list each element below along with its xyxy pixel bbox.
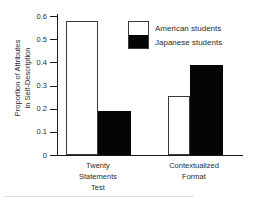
y-axis-title-line2: in Self-Description bbox=[23, 47, 32, 108]
bar bbox=[98, 111, 131, 155]
bar-chart-figure: Proportion of Attributes in Self-Descrip… bbox=[0, 0, 269, 202]
x-axis-line bbox=[57, 155, 243, 156]
y-axis-title-line1: Proportion of Attributes bbox=[13, 39, 22, 115]
footer-rule bbox=[4, 196, 194, 197]
legend-swatch-japanese bbox=[129, 35, 148, 48]
y-axis-tick-label: 0.6 bbox=[37, 13, 47, 21]
x-axis-group-label-line: Contextualized bbox=[134, 160, 254, 171]
y-axis-tick-label: 0.1 bbox=[37, 129, 47, 137]
bar bbox=[66, 21, 98, 155]
bar bbox=[190, 65, 223, 155]
x-axis-group-label-line: Test bbox=[38, 182, 158, 193]
legend-swatch-box bbox=[128, 21, 149, 49]
y-axis-tick-label: 0.2 bbox=[37, 105, 47, 113]
bar bbox=[168, 96, 190, 155]
y-axis-tick: 0 bbox=[50, 155, 58, 156]
legend-swatch-american bbox=[129, 22, 148, 35]
y-axis-tick-label: 0 bbox=[43, 152, 47, 160]
y-axis-tick-label: 0.4 bbox=[37, 59, 47, 67]
x-axis-group-label-line: Format bbox=[134, 171, 254, 182]
y-axis-tick-label: 0.5 bbox=[37, 36, 47, 44]
y-axis-tick-label: 0.3 bbox=[37, 82, 47, 90]
legend-label-japanese: Japanese students bbox=[155, 39, 222, 47]
legend-label-american: American students bbox=[155, 25, 221, 33]
x-axis-group-label: ContextualizedFormat bbox=[134, 160, 254, 182]
